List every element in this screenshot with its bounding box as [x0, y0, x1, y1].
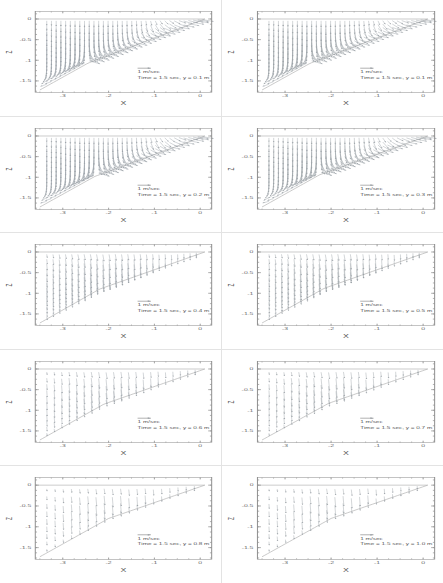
y-tick-label: -0.5: [20, 154, 32, 158]
y-tick-label: -1: [25, 58, 31, 62]
y-axis-title: Z: [5, 517, 14, 520]
x-tick-label: -1: [151, 444, 157, 448]
x-axis-title: X: [121, 101, 127, 106]
y-tick-label: -1: [247, 175, 253, 179]
panel-y-0.6: -3-2-100-0.5-1-1.5XZ1 m/secTime = 1.5 se…: [0, 350, 222, 467]
y-tick-label: -1.5: [20, 312, 32, 316]
y-tick-label: -1.5: [20, 546, 32, 550]
scale-label: 1 m/sec: [360, 303, 383, 307]
velocity-vector-plot: -3-2-100-0.5-1-1.5XZ1 m/secTime = 1.5 se…: [0, 350, 221, 466]
y-axis-title: Z: [226, 400, 235, 403]
velocity-vector-plot: -3-2-100-0.5-1-1.5XZ1 m/secTime = 1.5 se…: [222, 117, 443, 233]
y-tick-label: -1: [247, 58, 253, 62]
y-tick-label: -0.5: [241, 271, 253, 275]
x-axis-title: X: [121, 334, 127, 339]
time-section-label: Time = 1.5 sec, y = 0.1 m: [360, 75, 432, 79]
velocity-vector-plot: -3-2-100-0.5-1-1.5XZ1 m/secTime = 1.5 se…: [222, 233, 443, 349]
time-section-label: Time = 1.5 sec, y = 0.3 m: [360, 192, 432, 196]
y-tick-label: 0: [28, 367, 32, 371]
time-section-label: Time = 1.5 sec, y = 0.6 m: [138, 425, 210, 429]
velocity-vector-plot: -3-2-100-0.5-1-1.5XZ1 m/secTime = 1.5 se…: [222, 350, 443, 466]
y-tick-label: 0: [249, 250, 253, 254]
x-tick-label: 0: [198, 211, 202, 215]
x-axis-title: X: [121, 568, 127, 573]
y-tick-label: -1.5: [20, 429, 32, 433]
scale-label: 1 m/sec: [138, 537, 161, 541]
x-tick-label: 0: [198, 561, 202, 565]
x-tick-label: -2: [106, 94, 112, 98]
y-tick-label: -1.5: [241, 196, 253, 200]
y-tick-label: 0: [249, 134, 253, 138]
x-tick-label: -1: [374, 561, 380, 565]
x-tick-label: -2: [106, 327, 112, 331]
panel-y-0.1: -3-2-100-0.5-1-1.5XZ1 m/secTime = 1.5 se…: [222, 0, 443, 117]
time-section-label: Time = 1.5 sec, y = 1.0 m: [360, 542, 432, 546]
y-tick-label: -1: [25, 175, 31, 179]
scale-arrow-head-icon: [148, 417, 151, 419]
figure-root: -3-2-100-0.5-1-1.5XZ1 m/secTime = 1.5 se…: [0, 0, 443, 583]
x-tick-label: -3: [60, 211, 66, 215]
x-tick-label: 0: [421, 561, 425, 565]
x-tick-label: -1: [374, 94, 380, 98]
x-axis-title: X: [121, 217, 127, 222]
y-axis-title: Z: [5, 400, 14, 403]
panel-y-0.2: -3-2-100-0.5-1-1.5XZ1 m/secTime = 1.5 se…: [0, 117, 222, 234]
y-tick-label: -0.5: [241, 504, 253, 508]
x-tick-label: -1: [151, 211, 157, 215]
x-tick-label: -1: [151, 327, 157, 331]
x-tick-label: 0: [198, 94, 202, 98]
x-tick-label: -1: [151, 561, 157, 565]
velocity-vector-plot: -3-2-100-0.5-1-1.5XZ1 m/secTime = 1.5 se…: [0, 233, 221, 349]
y-tick-label: -1: [247, 408, 253, 412]
y-tick-label: -1.5: [241, 79, 253, 83]
x-axis-title: X: [343, 217, 349, 222]
x-tick-label: -1: [374, 211, 380, 215]
scale-label: 1 m/sec: [360, 187, 383, 191]
x-axis-title: X: [343, 450, 349, 455]
x-tick-label: 0: [198, 327, 202, 331]
scale-label: 1 m/sec: [360, 420, 383, 424]
scale-arrow-head-icon: [370, 417, 373, 419]
y-tick-label: -1: [25, 291, 31, 295]
scale-arrow-head-icon: [370, 534, 373, 536]
x-tick-label: -2: [106, 211, 112, 215]
panel-y-0.1: -3-2-100-0.5-1-1.5XZ1 m/secTime = 1.5 se…: [0, 0, 222, 117]
y-tick-label: -0.5: [20, 504, 32, 508]
y-tick-label: -1.5: [20, 79, 32, 83]
y-axis-title: Z: [5, 167, 14, 170]
y-axis-title: Z: [226, 517, 235, 520]
x-tick-label: -1: [374, 444, 380, 448]
scale-label: 1 m/sec: [138, 303, 161, 307]
scale-label: 1 m/sec: [138, 187, 161, 191]
scale-label: 1 m/sec: [360, 537, 383, 541]
y-tick-label: 0: [249, 484, 253, 488]
velocity-vector-plot: -3-2-100-0.5-1-1.5XZ1 m/secTime = 1.5 se…: [0, 117, 221, 233]
time-section-label: Time = 1.5 sec, y = 0.1 m: [138, 75, 210, 79]
y-tick-label: 0: [28, 484, 32, 488]
time-section-label: Time = 1.5 sec, y = 0.4 m: [138, 309, 210, 313]
x-tick-label: -2: [106, 561, 112, 565]
y-axis-title: Z: [226, 167, 235, 170]
y-tick-label: -0.5: [20, 387, 32, 391]
y-tick-label: -1: [25, 408, 31, 412]
x-tick-label: -2: [106, 444, 112, 448]
x-tick-label: 0: [421, 211, 425, 215]
panel-grid: -3-2-100-0.5-1-1.5XZ1 m/secTime = 1.5 se…: [0, 0, 443, 583]
y-axis-title: Z: [226, 50, 235, 53]
y-tick-label: -0.5: [20, 271, 32, 275]
velocity-vector-plot: -3-2-100-0.5-1-1.5XZ1 m/secTime = 1.5 se…: [0, 466, 221, 583]
scale-arrow-head-icon: [148, 67, 151, 69]
y-tick-label: 0: [28, 17, 32, 21]
time-section-label: Time = 1.5 sec, y = 0.7 m: [360, 425, 432, 429]
scale-arrow-head-icon: [370, 184, 373, 186]
scale-arrow-head-icon: [148, 301, 151, 303]
scale-label: 1 m/sec: [138, 70, 161, 74]
x-axis-title: X: [343, 568, 349, 573]
x-tick-label: -2: [328, 211, 334, 215]
scale-arrow-head-icon: [148, 184, 151, 186]
x-tick-label: 0: [421, 444, 425, 448]
y-tick-label: -0.5: [20, 38, 32, 42]
x-tick-label: -3: [60, 561, 66, 565]
x-tick-label: 0: [198, 444, 202, 448]
y-tick-label: -1.5: [20, 195, 32, 199]
